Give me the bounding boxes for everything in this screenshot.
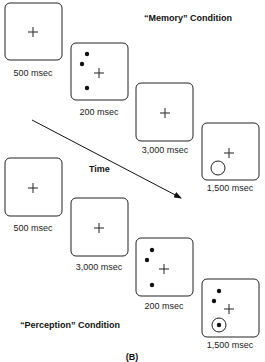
dot-icon	[145, 258, 149, 262]
perception-frame-4-duration: 1,500 msec	[207, 340, 254, 350]
perception-frame-3: 200 msec	[136, 238, 193, 311]
memory-frame-4: 1,500 msec	[202, 123, 259, 193]
fixation-cross-icon	[94, 223, 104, 233]
perception-frame-4: 1,500 msec	[202, 279, 259, 350]
dot-icon	[212, 299, 216, 303]
dot-icon	[80, 62, 84, 66]
fixation-cross-icon	[160, 108, 170, 118]
dot-icon	[150, 248, 154, 252]
memory-frame-2: 200 msec	[71, 43, 128, 117]
memory-frame-1: 500 msec	[5, 3, 62, 78]
perception-frame-3-duration: 200 msec	[144, 301, 184, 311]
fixation-cross-icon	[224, 304, 234, 314]
dot-icon	[217, 289, 221, 293]
fixation-cross-icon	[159, 264, 169, 274]
perception-frame-2: 3,000 msec	[71, 198, 128, 272]
dot-icon	[217, 323, 221, 327]
dot-icon	[85, 52, 89, 56]
memory-frame-1-duration: 500 msec	[13, 68, 53, 78]
diagram: “Memory” Condition 500 msec 200 msec 3,0…	[0, 0, 265, 362]
fixation-cross-icon	[224, 148, 234, 158]
dot-icon	[150, 283, 154, 287]
probe-circle-icon	[211, 161, 225, 175]
perception-frame-2-duration: 3,000 msec	[76, 262, 123, 272]
perception-condition-title: “Perception” Condition	[20, 320, 120, 330]
memory-frame-3: 3,000 msec	[136, 83, 193, 155]
memory-frame-4-duration: 1,500 msec	[207, 183, 254, 193]
perception-frame-1-duration: 500 msec	[13, 223, 53, 233]
time-label: Time	[89, 164, 110, 174]
fixation-cross-icon	[28, 27, 38, 37]
memory-condition-title: “Memory” Condition	[144, 13, 232, 23]
time-arrow	[32, 120, 181, 198]
dot-icon	[85, 86, 89, 90]
memory-frame-2-duration: 200 msec	[79, 107, 119, 117]
perception-frame-1: 500 msec	[5, 158, 62, 233]
fixation-cross-icon	[28, 183, 38, 193]
fixation-cross-icon	[94, 68, 104, 78]
figure-label: (B)	[126, 352, 139, 362]
memory-frame-3-duration: 3,000 msec	[142, 145, 189, 155]
